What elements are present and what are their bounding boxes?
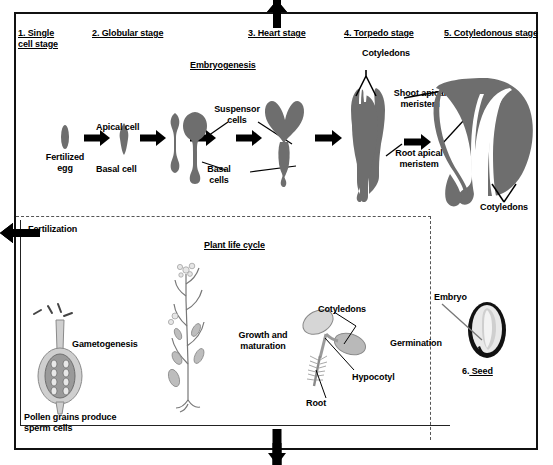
label-fertilization: Fertilization [28,224,108,235]
label-cotyledons-torpedo: Cotyledons [350,48,422,59]
embryo-fertilized-egg [58,124,72,150]
label-basal-cell: Basal cell [96,164,170,175]
label-gametogenesis: Gametogenesis [72,339,162,350]
arrow-torpedo-to-cotyledonous [404,134,432,150]
arrow-stage2-to-stage3 [140,130,166,146]
seedling-illustration [292,300,382,400]
label-growth-and-maturation: Growth and maturation [228,330,298,351]
label-seed-caption: 6. Seed [462,366,522,377]
cotyledon-leader-cotyledonous [470,182,540,208]
stage-label-heart-text: 3. Heart stage [248,28,306,38]
label-seedling-cotyledons: Cotyledons [318,304,388,315]
lifecycle-title: Plant life cycle [204,240,304,251]
stage-label-cotyledonous-text: 5. Cotyledonous stage [444,28,538,38]
sperm-cells-icon [28,300,84,326]
label-root: Root [306,398,346,409]
label-fertilized-egg: Fertilized egg [30,152,100,173]
stage-label-globular-text: 2. Globular stage [92,28,163,38]
label-hypocotyl: Hypocotyl [352,372,412,383]
label-germination: Germination [390,338,466,349]
label-pollen-grains: Pollen grains produce sperm cells [24,412,154,433]
stage-label-heart: 3. Heart stage [248,28,346,39]
stage-label-globular: 2. Globular stage [92,28,202,39]
stage-label-cotyledonous: 5. Cotyledonous stage [444,28,553,39]
arrow-globular-to-heart [236,130,262,146]
arrow-heart-to-torpedo [315,130,343,146]
lifecycle-dashed-top-border [16,216,431,217]
stage-label-torpedo: 4. Torpedo stage [344,28,448,39]
arabidopsis-plant-illustration [150,260,230,410]
figure-root: 1. Single cell stage 2. Globular stage 3… [0,0,553,465]
pollen-grain-illustration [30,318,90,416]
embryogenesis-title: Embryogenesis [190,60,290,71]
stage-label-single-cell: 1. Single cell stage [18,28,80,49]
stage-label-torpedo-text: 4. Torpedo stage [344,28,414,38]
embryo-heart-stage [262,90,308,188]
